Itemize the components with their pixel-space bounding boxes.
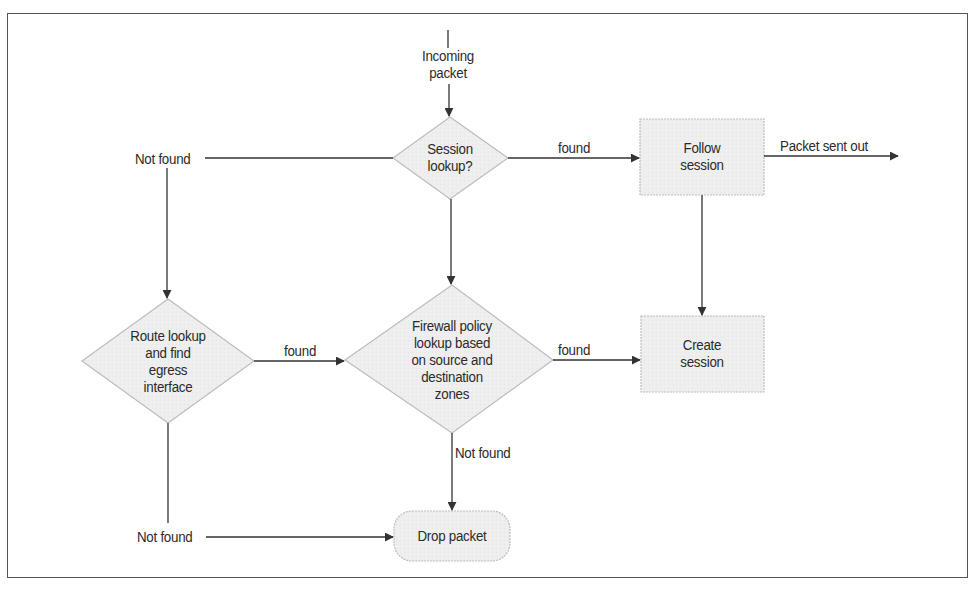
create-session-label: Create session [659, 336, 745, 370]
policy-lookup-line-3: on source and [392, 351, 512, 368]
incoming-line-1: Incoming [407, 47, 490, 64]
edge-label-policy-not-found: Not found [455, 444, 510, 461]
policy-lookup-label: Firewall policy lookup based on source a… [392, 317, 512, 402]
session-lookup-line-1: Session [407, 140, 493, 157]
edge-label-route-not-found: Not found [137, 528, 192, 545]
policy-lookup-line-1: Firewall policy [392, 317, 512, 334]
session-lookup-line-2: lookup? [407, 157, 493, 174]
follow-session-line-2: session [659, 156, 745, 173]
diagram-canvas [0, 0, 976, 589]
route-lookup-line-4: interface [112, 378, 224, 395]
incoming-line-2: packet [407, 64, 490, 81]
route-lookup-line-3: egress [112, 361, 224, 378]
edge-label-session-found: found [558, 139, 590, 156]
route-lookup-line-2: and find [112, 344, 224, 361]
policy-lookup-line-2: lookup based [392, 334, 512, 351]
session-lookup-label: Session lookup? [407, 140, 493, 174]
drop-packet-line-1: Drop packet [405, 527, 500, 544]
create-session-line-1: Create [659, 336, 745, 353]
edge-label-policy-found: found [558, 341, 590, 358]
follow-session-line-1: Follow [659, 139, 745, 156]
route-lookup-line-1: Route lookup [112, 327, 224, 344]
packet-flow-diagram: Incoming packet Session lookup? Follow s… [0, 0, 976, 589]
edge-label-packet-sent-out: Packet sent out [780, 137, 868, 154]
edge-label-session-not-found: Not found [135, 150, 190, 167]
policy-lookup-line-5: zones [392, 385, 512, 402]
policy-lookup-line-4: destination [392, 368, 512, 385]
edge-label-route-found: found [284, 342, 316, 359]
incoming-packet-label: Incoming packet [407, 47, 490, 81]
create-session-line-2: session [659, 353, 745, 370]
route-lookup-label: Route lookup and find egress interface [112, 327, 224, 395]
follow-session-label: Follow session [659, 139, 745, 173]
drop-packet-label: Drop packet [405, 527, 500, 544]
